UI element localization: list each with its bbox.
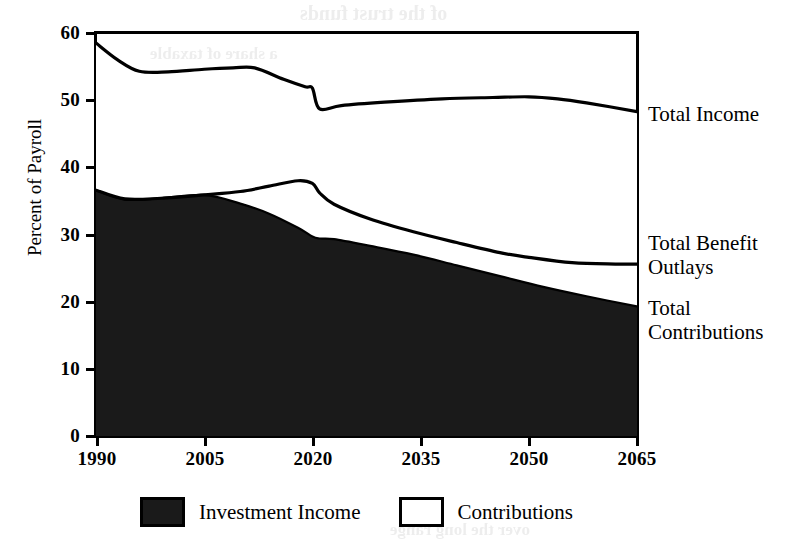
x-tick-2020 (312, 437, 315, 446)
series-label-total-benefit-outlays: Total Benefit Outlays (648, 232, 758, 279)
legend-swatch-icon (399, 497, 444, 527)
x-tick-label-1990: 1990 (62, 449, 132, 468)
series-label-total-contributions: Total Contributions (648, 297, 764, 344)
x-tick-label-2005: 2005 (170, 449, 240, 468)
chart-canvas (96, 33, 637, 436)
y-axis-title: Percent of Payroll (25, 78, 44, 298)
x-tick-2065 (636, 437, 639, 446)
x-tick-2005 (204, 437, 207, 446)
x-tick-1990 (96, 437, 99, 446)
x-tick-2035 (420, 437, 423, 446)
stacked-area-chart: 60 50 40 30 20 10 0 1990 2005 2020 2035 … (0, 0, 788, 560)
y-tick-label-50: 50 (61, 90, 80, 109)
x-tick-label-2020: 2020 (278, 449, 348, 468)
y-tick-10 (86, 368, 95, 371)
legend-label: Contributions (458, 502, 574, 523)
y-tick-label-60: 60 (61, 23, 80, 42)
y-tick-30 (86, 234, 95, 237)
y-tick-40 (86, 166, 95, 169)
chart-legend: Investment Income Contributions (140, 497, 573, 527)
y-tick-label-40: 40 (61, 157, 80, 176)
y-tick-label-30: 30 (61, 225, 80, 244)
x-tick-label-2035: 2035 (386, 449, 456, 468)
y-tick-50 (86, 99, 95, 102)
y-tick-20 (86, 301, 95, 304)
y-tick-0 (86, 435, 95, 438)
legend-label: Investment Income (199, 502, 361, 523)
x-tick-label-2065: 2065 (602, 449, 672, 468)
y-tick-label-10: 10 (61, 359, 80, 378)
x-tick-2050 (528, 437, 531, 446)
legend-swatch-icon (140, 497, 185, 527)
y-tick-60 (86, 32, 95, 35)
plot-area (96, 33, 637, 436)
y-tick-label-0: 0 (70, 426, 80, 445)
legend-item-investment-income: Investment Income (140, 497, 361, 527)
x-tick-label-2050: 2050 (494, 449, 564, 468)
legend-item-contributions: Contributions (399, 497, 574, 527)
y-tick-label-20: 20 (61, 292, 80, 311)
series-label-total-income: Total Income (648, 103, 759, 127)
